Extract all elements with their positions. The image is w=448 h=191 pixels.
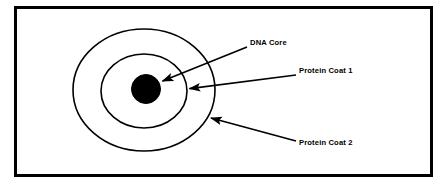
diagram-canvas: DNA Core Protein Coat 1 Protein Coat 2 — [0, 0, 448, 191]
protein-coat-2-label: Protein Coat 2 — [299, 138, 353, 147]
dna-core-label: DNA Core — [250, 38, 287, 47]
diagram-border — [16, 8, 432, 176]
protein-coat-1-label: Protein Coat 1 — [299, 66, 353, 75]
virus-diagram: DNA Core Protein Coat 1 Protein Coat 2 — [0, 0, 448, 191]
dna-core-circle — [132, 75, 161, 104]
